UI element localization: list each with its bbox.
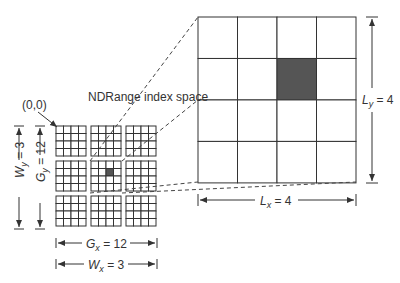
- gy-label: Gy = 12: [34, 141, 50, 182]
- small-grid: [56, 126, 156, 226]
- large-grid: [198, 17, 356, 183]
- lx-label: Lx = 4: [260, 194, 292, 210]
- ndrange-diagram: (0,0) NDRange index space Wy = 3 Gy = 12…: [0, 0, 400, 283]
- wy-label: Wy = 3: [13, 141, 29, 178]
- wx-label: Wx = 3: [88, 258, 125, 274]
- gx-label: Gx = 12: [86, 237, 127, 253]
- origin-label: (0,0): [22, 98, 47, 112]
- ndrange-title: NDRange index space: [88, 90, 208, 104]
- origin-arrow: [38, 112, 57, 127]
- ly-label: Ly = 4: [362, 93, 394, 109]
